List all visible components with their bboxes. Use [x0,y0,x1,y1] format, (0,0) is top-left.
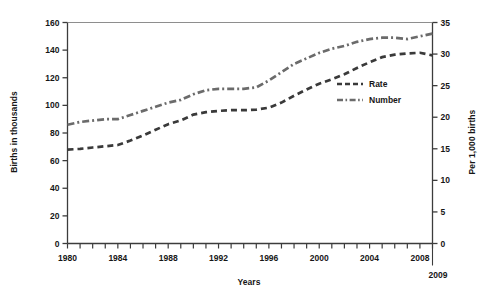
series-line-rate [68,53,433,150]
plot-area [0,0,488,299]
series-line-number [68,34,433,125]
data-series-lines [68,34,433,150]
chart-container: Births in thousands Per 1,000 births Yea… [0,0,488,299]
